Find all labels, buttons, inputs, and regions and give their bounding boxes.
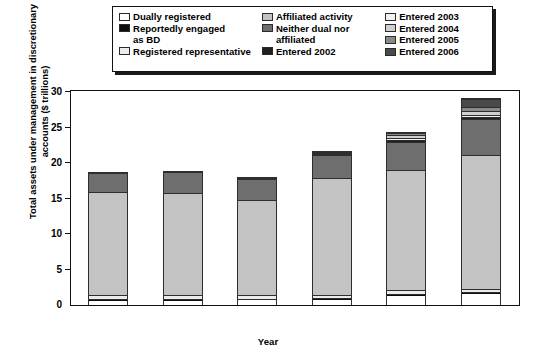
legend-item[interactable]: Affiliated activity <box>262 11 385 22</box>
legend-column-1: Dually registeredReportedly engagedas BD… <box>119 11 262 57</box>
y-tick-mark <box>65 162 71 163</box>
bar-segment <box>462 99 500 106</box>
plot-inner: 051015202530200120022003200420052006 <box>71 91 519 305</box>
legend-column-3: Entered 2003Entered 2004Entered 2005Ente… <box>385 11 487 58</box>
legend-column-2: Affiliated activityNeither dual noraffil… <box>262 11 385 57</box>
legend-swatch-icon <box>119 13 130 21</box>
y-tick-mark <box>65 198 71 199</box>
legend-item-label: Entered 2005 <box>399 34 459 45</box>
bar-2005[interactable] <box>386 132 426 305</box>
legend-item-label: Registered representative <box>133 46 251 57</box>
legend-item-label: Dually registered <box>133 11 211 22</box>
bar-segment <box>387 142 425 170</box>
y-tick-label: 25 <box>5 121 71 132</box>
bar-segment <box>313 178 351 295</box>
chart-legend: Dually registeredReportedly engagedas BD… <box>112 6 493 72</box>
y-tick-label: 5 <box>5 263 71 274</box>
legend-item-label: Entered 2004 <box>399 23 459 34</box>
bar-segment <box>462 119 500 154</box>
y-tick-mark <box>65 127 71 128</box>
y-tick-label: 20 <box>5 157 71 168</box>
y-tick-label: 15 <box>5 192 71 203</box>
bar-segment <box>387 170 425 290</box>
y-tick-mark <box>65 269 71 270</box>
legend-item[interactable]: Entered 2004 <box>385 23 487 34</box>
bar-segment <box>238 300 276 305</box>
x-axis-title: Year <box>0 336 536 347</box>
legend-item[interactable]: Reportedly engagedas BD <box>119 23 262 45</box>
bar-2002[interactable] <box>163 171 203 305</box>
legend-item[interactable]: Entered 2002 <box>262 46 385 57</box>
legend-swatch-icon <box>385 48 396 56</box>
plot-area: 051015202530200120022003200420052006 <box>70 90 520 306</box>
legend-item-label: Affiliated activity <box>276 11 353 22</box>
legend-swatch-icon <box>262 13 273 21</box>
bar-segment <box>313 155 351 178</box>
y-tick-label: 30 <box>5 86 71 97</box>
bar-2001[interactable] <box>88 172 128 305</box>
chart-figure: Dually registeredReportedly engagedas BD… <box>0 0 536 359</box>
bar-segment <box>164 301 202 305</box>
y-tick-label: 10 <box>5 228 71 239</box>
bar-2003[interactable] <box>237 177 277 305</box>
bar-segment <box>89 301 127 305</box>
legend-swatch-icon <box>262 47 273 55</box>
bar-segment <box>89 192 127 295</box>
y-tick-mark <box>65 91 71 92</box>
legend-item[interactable]: Entered 2006 <box>385 46 487 57</box>
legend-swatch-icon <box>385 13 396 21</box>
legend-swatch-icon <box>262 24 273 32</box>
legend-item-label: Entered 2002 <box>276 46 336 57</box>
bar-segment <box>164 172 202 193</box>
y-tick-label: 0 <box>5 299 71 310</box>
y-tick-mark <box>65 233 71 234</box>
legend-swatch-icon <box>119 47 130 55</box>
legend-item-label: Neither dual noraffiliated <box>276 23 350 45</box>
legend-item[interactable]: Entered 2005 <box>385 34 487 45</box>
bar-segment <box>462 155 500 289</box>
legend-item[interactable]: Entered 2003 <box>385 11 487 22</box>
legend-item-label: Entered 2003 <box>399 11 459 22</box>
bar-segment <box>462 294 500 305</box>
y-axis-title: Total assets under management in discret… <box>27 4 50 219</box>
bar-2006[interactable] <box>461 98 501 305</box>
bar-segment <box>238 200 276 296</box>
bar-segment <box>313 300 351 305</box>
bar-segment <box>387 296 425 305</box>
bar-segment <box>89 173 127 192</box>
bar-segment <box>238 179 276 199</box>
legend-item[interactable]: Registered representative <box>119 46 262 57</box>
legend-swatch-icon <box>119 24 130 32</box>
legend-item-label: Reportedly engagedas BD <box>133 23 225 45</box>
bar-segment <box>164 193 202 295</box>
legend-item-label: Entered 2006 <box>399 46 459 57</box>
bar-2004[interactable] <box>312 151 352 305</box>
legend-item-label-cont: affiliated <box>276 34 350 45</box>
legend-item[interactable]: Neither dual noraffiliated <box>262 23 385 45</box>
legend-swatch-icon <box>385 36 396 44</box>
legend-swatch-icon <box>385 24 396 32</box>
legend-item[interactable]: Dually registered <box>119 11 262 22</box>
legend-item-label-cont: as BD <box>133 34 225 45</box>
